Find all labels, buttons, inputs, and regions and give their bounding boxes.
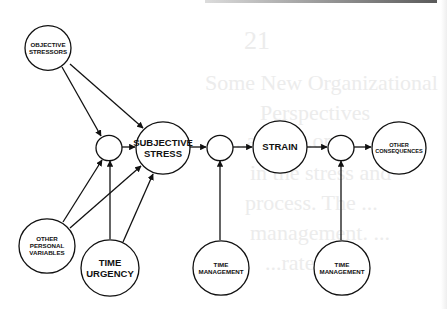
diagram-nodes: OBJECTIVESTRESSORSSUBJECTIVESTRESSSTRAIN… [19, 26, 426, 296]
arrow-other-personal-variables-to-mod1 [63, 160, 102, 222]
node-circle [207, 135, 233, 160]
arrow-objective-stressors-to-mod1 [62, 67, 101, 136]
node-label: STRESS [144, 148, 182, 159]
node-label: OBJECTIVE [30, 41, 65, 48]
node-other-consequences: OTHERCONSEQUENCES [372, 122, 426, 174]
node-strain: STRAIN [253, 121, 307, 173]
node-mod3 [328, 135, 354, 160]
node-time-management-2: TIMEMANAGEMENT [314, 241, 370, 295]
node-label: PERSONAL [30, 242, 65, 249]
node-mod2 [207, 135, 233, 160]
node-label: OTHER [36, 235, 58, 242]
node-label: TIME [214, 261, 229, 268]
node-label: MANAGEMENT [319, 268, 364, 275]
node-label: STRAIN [262, 141, 298, 152]
node-label: TIME [335, 261, 350, 268]
node-label: URGENCY [86, 268, 134, 279]
node-label: TIME [99, 257, 122, 268]
node-label: VARIABLES [29, 249, 64, 256]
node-label: MANAGEMENT [198, 268, 243, 275]
node-mod1 [96, 135, 122, 160]
node-circle [328, 135, 354, 160]
node-subjective-stress: SUBJECTIVESTRESS [133, 122, 193, 174]
node-time-urgency: TIMEURGENCY [81, 240, 139, 296]
arrow-objective-stressors-to-subjective-stress [70, 64, 143, 128]
node-objective-stressors: OBJECTIVESTRESSORS [25, 26, 71, 71]
node-other-personal-variables: OTHERPERSONALVARIABLES [19, 219, 75, 273]
arrow-other-personal-variables-to-subjective-stress [70, 166, 141, 228]
stress-process-diagram: OBJECTIVESTRESSORSSUBJECTIVESTRESSSTRAIN… [0, 0, 447, 309]
node-label: SUBJECTIVE [133, 137, 193, 148]
arrow-time-urgency-to-subjective-stress [123, 174, 153, 242]
node-time-management-1: TIMEMANAGEMENT [193, 241, 249, 295]
node-circle [96, 135, 122, 160]
node-label: CONSEQUENCES [375, 148, 423, 154]
node-label: STRESSORS [29, 48, 67, 55]
node-label: OTHER [389, 142, 409, 148]
